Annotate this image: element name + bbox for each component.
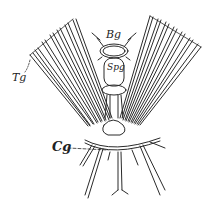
label-thoracic-ganglion: Tg [12, 72, 26, 83]
left-nerve-fan [30, 19, 112, 126]
right-nerve-fan [120, 16, 201, 125]
label-brain-ganglion: Bg [106, 29, 121, 40]
central-ganglion-chain [92, 33, 136, 135]
label-cerebral-ganglion: Cg [52, 140, 71, 153]
lower-nerves [80, 138, 165, 198]
label-subpharyngeal-ganglion: Spg [107, 63, 125, 72]
ganglia-diagram: Bg Spg Tg Cg [0, 0, 212, 206]
